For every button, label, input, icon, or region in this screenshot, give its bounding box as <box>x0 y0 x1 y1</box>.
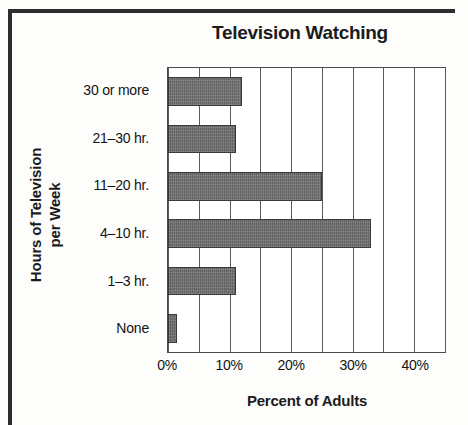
bar <box>168 172 322 200</box>
y-axis-tick-label: 30 or more <box>83 82 159 98</box>
x-axis-tick-label: 40% <box>401 357 428 373</box>
page-border-left <box>8 9 12 425</box>
bar-band <box>168 305 445 352</box>
y-axis-tick-label: None <box>116 320 159 336</box>
x-axis-tick-labels: 0%10%20%30%40% <box>167 357 446 379</box>
y-axis-tick-label: 4–10 hr. <box>100 225 159 241</box>
bar-band <box>168 163 445 210</box>
x-axis-tick-label: 10% <box>215 357 242 373</box>
bar-band <box>168 115 445 162</box>
plot-area <box>167 67 446 353</box>
y-axis-title-line-1: Hours of Television <box>26 85 45 345</box>
x-axis-tick-label: 0% <box>157 357 177 373</box>
gridline <box>445 68 446 352</box>
x-axis-title: Percent of Adults <box>167 392 447 409</box>
bar <box>168 125 236 153</box>
y-axis-tick-labels: None1–3 hr.4–10 hr.11–20 hr.21–30 hr.30 … <box>57 67 159 353</box>
x-axis-tick-label: 20% <box>277 357 304 373</box>
bar <box>168 314 177 342</box>
bar-band <box>168 68 445 115</box>
bars-group <box>168 68 445 352</box>
x-axis-tick-label: 30% <box>339 357 366 373</box>
bar-band <box>168 257 445 304</box>
bar <box>168 77 242 105</box>
bar <box>168 219 371 247</box>
bar <box>168 267 236 295</box>
y-axis-tick-label: 21–30 hr. <box>92 130 159 146</box>
page-border-top <box>8 9 455 13</box>
chart-title: Television Watching <box>150 22 450 44</box>
y-axis-tick-label: 1–3 hr. <box>108 273 159 289</box>
bar-band <box>168 210 445 257</box>
chart-figure: Television Watching Hours of Television … <box>0 0 468 425</box>
y-axis-tick-label: 11–20 hr. <box>93 177 159 193</box>
